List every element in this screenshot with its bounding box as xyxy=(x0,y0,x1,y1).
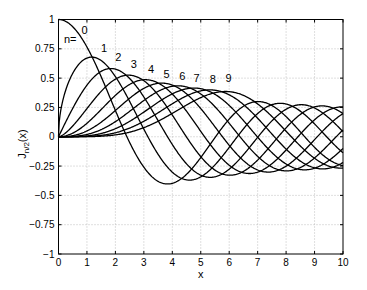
curve-label: 9 xyxy=(226,72,232,84)
x-tick-label: 4 xyxy=(170,257,176,268)
curve-label: 7 xyxy=(193,72,199,84)
curve-label: 8 xyxy=(210,73,216,85)
y-axis-label: Jn/2(x) xyxy=(16,129,31,158)
n-equals-label: n= xyxy=(64,33,77,45)
curve-label: 5 xyxy=(164,68,170,80)
curve-label: 0 xyxy=(82,24,88,36)
y-tick-label: 0.5 xyxy=(41,73,55,84)
x-tick-label: 7 xyxy=(255,257,261,268)
y-tick-label: 0.75 xyxy=(35,43,55,54)
x-tick-label: 9 xyxy=(312,257,318,268)
curve-label: 1 xyxy=(101,42,107,54)
y-tick-label: −1 xyxy=(43,249,55,260)
y-tick-label: 0 xyxy=(49,131,55,142)
x-tick-label: 2 xyxy=(113,257,119,268)
curve-label: 3 xyxy=(131,58,137,70)
x-tick-label: 0 xyxy=(56,257,62,268)
x-axis-label: x xyxy=(198,268,204,280)
y-label-arg: (x) xyxy=(16,129,28,142)
x-tick-label: 5 xyxy=(198,257,204,268)
y-label-sub: n/2 xyxy=(22,142,31,154)
x-tick-label: 3 xyxy=(141,257,147,268)
svg-text:Jn/2(x): Jn/2(x) xyxy=(16,129,31,158)
y-tick-label: 0.25 xyxy=(35,102,55,113)
x-tick-label: 8 xyxy=(283,257,289,268)
curve-label: 6 xyxy=(179,70,185,82)
x-tick-label: 1 xyxy=(84,257,90,268)
y-tick-label: −0.75 xyxy=(29,219,55,230)
curve-label: 4 xyxy=(148,63,154,75)
curve-labels: n=0123456789 xyxy=(64,24,232,85)
y-tick-label: −0.25 xyxy=(29,161,55,172)
x-tick-label: 10 xyxy=(337,257,349,268)
curve-label: 2 xyxy=(115,51,121,63)
bessel-chart: 012345678910−1−0.75−0.5−0.2500.250.50.75… xyxy=(0,0,367,290)
x-tick-label: 6 xyxy=(226,257,232,268)
y-tick-label: −0.5 xyxy=(35,190,55,201)
y-tick-label: 1 xyxy=(49,14,55,25)
